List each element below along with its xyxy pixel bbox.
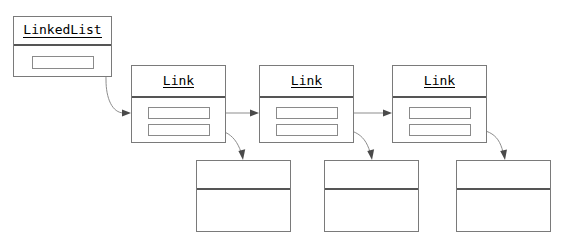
node-link-2-field-next[interactable] [276,107,338,119]
node-linkedlist-title: LinkedList [14,17,111,44]
node-link-2[interactable]: Link [259,65,354,143]
node-link-2-title: Link [260,66,353,96]
node-data-3[interactable] [456,160,551,232]
node-data-3-body [457,190,550,233]
node-link-2-body [260,98,353,144]
node-linkedlist-field-head[interactable] [32,56,94,69]
node-data-1-body [197,190,290,233]
node-linkedlist-body [14,46,111,78]
node-data-3-title [457,161,550,188]
node-link-1-field-next[interactable] [148,107,210,119]
node-link-1-title: Link [132,66,225,96]
node-link-3-title: Link [393,66,486,96]
node-link-2-field-data[interactable] [276,124,338,136]
node-link-2-title-text: Link [291,74,322,89]
diagram-canvas: LinkedList Link Link Link [0,0,563,248]
node-data-1[interactable] [196,160,291,232]
node-linkedlist[interactable]: LinkedList [13,16,112,77]
node-link-3-title-text: Link [424,74,455,89]
node-link-1[interactable]: Link [131,65,226,143]
node-link-3-body [393,98,486,144]
node-data-2-body [325,190,418,233]
node-data-2[interactable] [324,160,419,232]
node-linkedlist-title-text: LinkedList [23,23,101,38]
node-link-1-body [132,98,225,144]
node-data-2-title [325,161,418,188]
node-link-3[interactable]: Link [392,65,487,143]
node-link-3-field-data[interactable] [409,124,471,136]
node-data-1-title [197,161,290,188]
node-link-1-field-data[interactable] [148,124,210,136]
node-link-3-field-next[interactable] [409,107,471,119]
node-link-1-title-text: Link [163,74,194,89]
